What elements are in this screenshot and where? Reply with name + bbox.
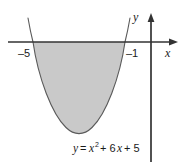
shaded-region — [33, 42, 125, 134]
y-axis-label: y — [132, 10, 139, 24]
equation-linear-var: x — [116, 142, 123, 154]
equation-constant: + 5 — [124, 142, 140, 154]
equation-rest: + 6 — [100, 142, 116, 154]
tick-label-minus-5: –5 — [18, 47, 30, 59]
y-axis — [148, 13, 155, 162]
figure-canvas: y x –5 –1 y = x 2 + 6 x + 5 — [0, 0, 183, 162]
equation-lhs: y — [72, 142, 79, 155]
parabola-figure: y x –5 –1 y = x 2 + 6 x + 5 — [0, 0, 183, 162]
equation-base-var: x — [88, 142, 95, 154]
equation-annotation: y = x 2 + 6 x + 5 — [72, 141, 140, 155]
equation-equals: = — [80, 142, 86, 154]
tick-label-minus-1: –1 — [126, 47, 138, 59]
x-axis-label: x — [164, 46, 171, 60]
equation-exponent: 2 — [95, 141, 99, 148]
